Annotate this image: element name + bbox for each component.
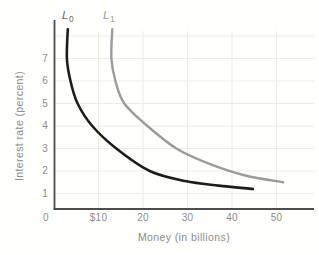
x-tick-label: 50 bbox=[271, 212, 283, 223]
y-axis-title: Interest rate (percent) bbox=[13, 71, 25, 181]
x-tick-label: 30 bbox=[182, 212, 194, 223]
y-tick-label: 2 bbox=[26, 165, 48, 176]
y-tick-label: 1 bbox=[26, 188, 48, 199]
curve-l1 bbox=[111, 29, 283, 182]
y-tick-label: 6 bbox=[26, 75, 48, 86]
x-tick-label: 40 bbox=[226, 212, 238, 223]
y-tick-label: 4 bbox=[26, 120, 48, 131]
curve-l0 bbox=[67, 29, 253, 189]
money-demand-chart: 1234567 0$1020304050 Interest rate (perc… bbox=[0, 0, 319, 255]
y-tick-label: 3 bbox=[26, 143, 48, 154]
curve-label-l0: L0 bbox=[62, 9, 74, 24]
x-tick-label: $10 bbox=[90, 212, 108, 223]
y-tick-label: 5 bbox=[26, 98, 48, 109]
curve-label-l1: L1 bbox=[103, 9, 115, 24]
x-tick-label: 0 bbox=[43, 212, 49, 223]
y-tick-label: 7 bbox=[26, 53, 48, 64]
x-tick-label: 20 bbox=[137, 212, 149, 223]
x-axis-title: Money (in billions) bbox=[54, 231, 314, 243]
